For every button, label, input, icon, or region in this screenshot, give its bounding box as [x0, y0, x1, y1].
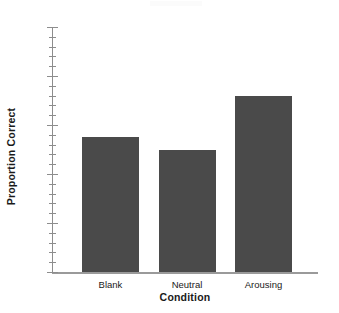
y-axis-minor-tick: [49, 203, 56, 204]
y-axis-minor-tick: [49, 115, 56, 116]
x-axis-title: Condition: [52, 291, 318, 303]
x-axis-line: [52, 272, 318, 274]
y-axis-major-tick: [47, 125, 58, 126]
y-axis-major-tick: [47, 272, 58, 273]
y-axis-minor-tick: [49, 56, 56, 57]
y-axis-minor-tick: [49, 194, 56, 195]
y-axis-minor-tick: [49, 47, 56, 48]
y-axis-minor-tick: [49, 145, 56, 146]
x-axis-tick-label: Arousing: [214, 279, 314, 290]
bar: [235, 96, 292, 272]
y-axis-minor-tick: [49, 184, 56, 185]
y-axis-minor-tick: [49, 233, 56, 234]
bar: [159, 150, 216, 273]
y-axis-minor-tick: [49, 105, 56, 106]
y-axis-line: [52, 27, 53, 273]
y-axis-minor-tick: [49, 164, 56, 165]
y-axis-major-tick: [47, 223, 58, 224]
y-axis-minor-tick: [49, 96, 56, 97]
plot-area: .2.3.4.5.6.7 BlankNeutralArousing: [52, 27, 318, 272]
bar: [82, 137, 139, 272]
scan-artifact: [150, 1, 202, 6]
y-axis-minor-tick: [49, 243, 56, 244]
y-axis-minor-tick: [49, 262, 56, 263]
y-axis-minor-tick: [49, 135, 56, 136]
y-axis-title: Proportion Correct: [0, 0, 22, 313]
y-axis-major-tick: [47, 174, 58, 175]
bar-chart-figure: Proportion Correct .2.3.4.5.6.7 BlankNeu…: [0, 0, 339, 313]
y-axis-minor-tick: [49, 37, 56, 38]
y-axis-minor-tick: [49, 66, 56, 67]
y-axis-minor-tick: [49, 154, 56, 155]
y-axis-major-tick: [47, 27, 58, 28]
y-axis-minor-tick: [49, 213, 56, 214]
y-axis-minor-tick: [49, 86, 56, 87]
y-axis-major-tick: [47, 76, 58, 77]
y-axis-minor-tick: [49, 252, 56, 253]
